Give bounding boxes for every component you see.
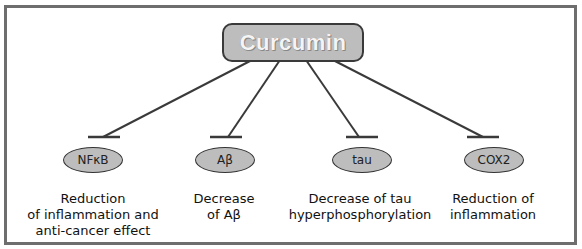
effect-label-cox2: Reduction of inflammation bbox=[413, 191, 573, 223]
target-node-tau: tau bbox=[332, 147, 392, 173]
target-node-nfkb: NFκB bbox=[63, 147, 123, 173]
effect-line: inflammation bbox=[413, 207, 573, 223]
link-abeta bbox=[228, 60, 280, 137]
link-tau bbox=[306, 60, 359, 137]
root-node-curcumin: Curcumin bbox=[222, 23, 364, 62]
target-node-abeta: Aβ bbox=[195, 147, 255, 173]
link-cox2 bbox=[333, 60, 483, 137]
link-nfkb bbox=[103, 60, 252, 137]
effect-line: Reduction of bbox=[413, 191, 573, 207]
target-node-cox2: COX2 bbox=[464, 147, 524, 173]
effect-line: anti-cancer effect bbox=[13, 223, 173, 239]
